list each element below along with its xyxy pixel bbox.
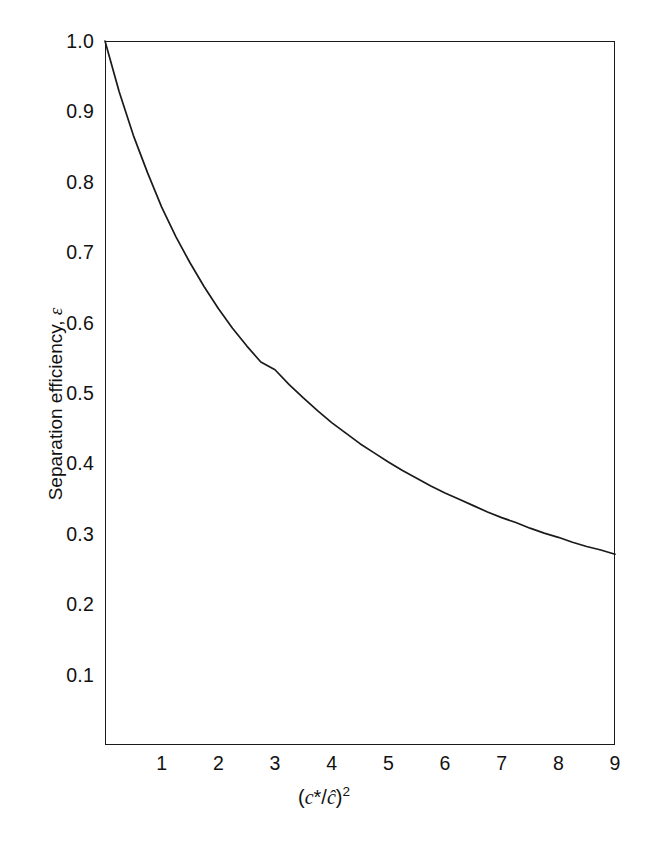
y-tick-label: 0.9	[66, 100, 94, 123]
y-tick-label: 0.4	[66, 452, 94, 475]
x-title-numerator-c: c	[305, 786, 314, 808]
y-axis-title-text: Separation efficiency,	[45, 320, 66, 500]
x-tick-label: 4	[326, 752, 337, 775]
y-tick-label: 0.7	[66, 241, 94, 264]
y-tick-label: 0.6	[66, 311, 94, 334]
x-tick-label: 9	[610, 752, 621, 775]
epsilon-symbol: ε	[45, 308, 66, 316]
x-tick-label: 8	[553, 752, 564, 775]
chart-figure: 0.10.20.30.40.50.60.70.80.91.0 123456789…	[0, 0, 648, 843]
y-tick-label: 1.0	[66, 30, 94, 53]
y-tick-label: 0.2	[66, 593, 94, 616]
y-tick-label: 0.3	[66, 522, 94, 545]
y-tick-label: 0.8	[66, 170, 94, 193]
x-tick-label: 7	[496, 752, 507, 775]
x-tick-label: 1	[156, 752, 167, 775]
x-title-denominator-c-hat: ĉ	[327, 786, 336, 808]
y-axis-title: Separation efficiency, ε	[45, 254, 67, 554]
separation-efficiency-line	[105, 41, 615, 554]
x-tick-label: 6	[440, 752, 451, 775]
y-tick-label: 0.1	[66, 663, 94, 686]
x-tick-label: 2	[213, 752, 224, 775]
x-tick-label: 5	[383, 752, 394, 775]
data-curve	[105, 41, 615, 745]
x-title-exponent: 2	[342, 784, 350, 799]
x-tick-label: 3	[270, 752, 281, 775]
x-title-open-paren: (	[298, 786, 305, 808]
y-tick-label: 0.5	[66, 382, 94, 405]
x-axis-title: (c*/ĉ)2	[0, 784, 648, 809]
